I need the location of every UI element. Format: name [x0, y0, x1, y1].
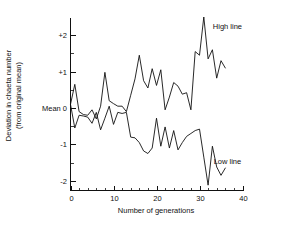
- chart-canvas: High lineLow line 010203040+2+1Mean 0-1-…: [0, 0, 282, 232]
- series-line-high-line: [71, 17, 226, 119]
- chart-series-labels: High lineLow line: [213, 22, 242, 166]
- chart-figure: Deviation in chaeta number (from origina…: [0, 0, 282, 232]
- y-tick-label: -2: [60, 177, 67, 186]
- x-tick-label: 30: [196, 194, 204, 203]
- x-tick-label: 10: [110, 194, 118, 203]
- y-tick-label: -1: [60, 140, 67, 149]
- chart-series: [71, 17, 226, 185]
- x-tick-label: 0: [69, 194, 73, 203]
- series-label-low-line: Low line: [214, 157, 242, 166]
- series-line-low-line: [71, 104, 226, 185]
- series-label-high-line: High line: [213, 22, 242, 31]
- x-tick-label: 40: [239, 194, 247, 203]
- y-tick-label: +2: [58, 31, 67, 40]
- y-tick-label: +1: [58, 68, 67, 77]
- x-tick-label: 20: [153, 194, 161, 203]
- x-axis-ticks: [72, 186, 244, 191]
- y-tick-label: Mean 0: [42, 104, 67, 113]
- x-axis-title: Number of generations: [118, 206, 195, 215]
